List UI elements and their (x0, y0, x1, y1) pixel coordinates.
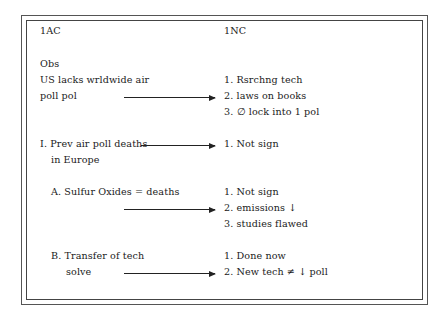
obs-response-3: 3. ∅ lock into 1 pol (224, 106, 319, 118)
arrow-obs-to-response (124, 97, 215, 98)
subA-claim: A. Sulfur Oxides = deaths (51, 186, 179, 198)
adv1-claim-line1: I. Prev air poll deaths (40, 138, 147, 150)
arrow-subA-to-response (124, 209, 215, 210)
obs-claim-line2: poll pol (40, 90, 77, 102)
arrow-subB-to-response (124, 273, 215, 274)
subB-claim-line1: B. Transfer of tech (51, 250, 144, 262)
subA-response-1: 1. Not sign (224, 186, 279, 198)
adv1-response-1: 1. Not sign (224, 138, 279, 150)
obs-claim-line1: US lacks wrldwide air (40, 74, 149, 86)
subA-response-3: 3. studies flawed (224, 218, 308, 230)
obs-heading: Obs (40, 58, 59, 70)
column-header-1ac: 1AC (40, 25, 61, 37)
subB-response-1: 1. Done now (224, 250, 286, 262)
subA-response-2: 2. emissions ↓ (224, 202, 296, 214)
obs-response-2: 2. laws on books (224, 90, 306, 102)
adv1-claim-line2: in Europe (51, 154, 100, 166)
subB-response-2: 2. New tech ≠ ↓ poll (224, 266, 328, 278)
subB-claim-line2: solve (66, 266, 91, 278)
arrow-adv1-to-response (141, 145, 215, 146)
obs-response-1: 1. Rsrchng tech (224, 74, 302, 86)
column-header-1nc: 1NC (224, 25, 246, 37)
